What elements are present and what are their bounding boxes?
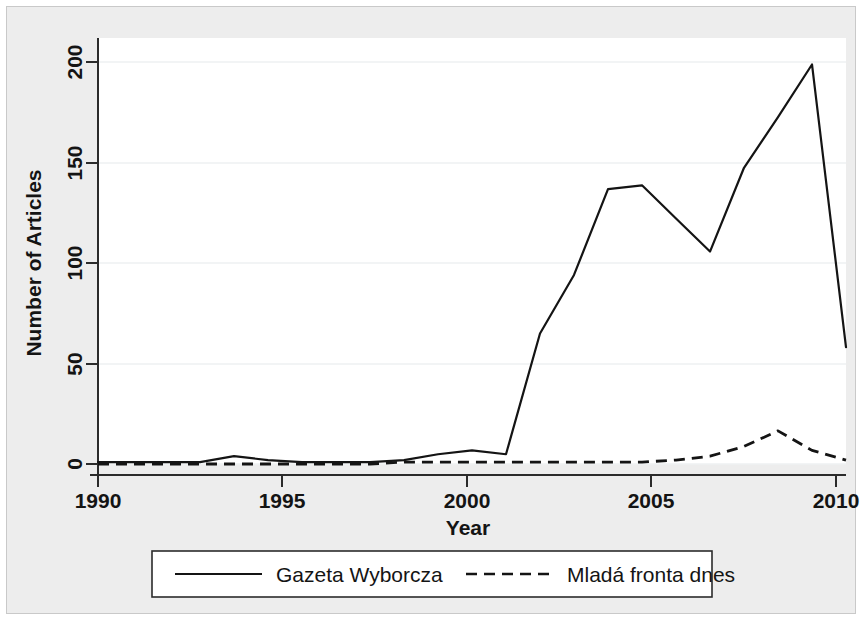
x-axis-title: Year: [446, 516, 490, 539]
line-chart: 200 150 100 50 0 Number of Articles 1990…: [0, 0, 864, 628]
x-axis-tick-labels: 1990 1995 2000 2005 2010: [75, 489, 860, 512]
y-axis-title: Number of Articles: [22, 169, 45, 356]
legend: Gazeta Wyborcza Mladá fronta dnes: [152, 551, 735, 597]
legend-label-gazeta-wyborcza: Gazeta Wyborcza: [276, 563, 443, 586]
x-tick-label-1995: 1995: [259, 489, 306, 512]
y-axis-ticks: [86, 62, 98, 464]
y-tick-label-150: 150: [63, 145, 86, 180]
x-tick-label-2000: 2000: [444, 489, 491, 512]
x-tick-label-1990: 1990: [75, 489, 122, 512]
x-tick-label-2010: 2010: [813, 489, 860, 512]
legend-label-mlada-fronta-dnes: Mladá fronta dnes: [567, 563, 735, 586]
y-tick-label-50: 50: [63, 352, 86, 375]
figure-root: 200 150 100 50 0 Number of Articles 1990…: [0, 0, 864, 628]
x-axis-ticks: [98, 475, 836, 487]
plot-area-background: [98, 38, 846, 464]
y-axis-tick-labels: 200 150 100 50 0: [63, 44, 86, 469]
y-tick-label-0: 0: [63, 458, 86, 470]
x-tick-label-2005: 2005: [628, 489, 675, 512]
y-tick-label-200: 200: [63, 44, 86, 79]
y-tick-label-100: 100: [63, 245, 86, 280]
